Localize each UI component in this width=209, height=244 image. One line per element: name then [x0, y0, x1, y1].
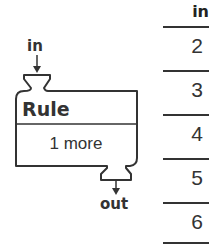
table-row: 2: [191, 34, 203, 58]
table-row: 5: [191, 166, 203, 190]
table-divider: [163, 158, 209, 160]
table-row: 6: [191, 210, 203, 234]
table-divider: [163, 26, 209, 28]
table-row: 3: [191, 78, 203, 102]
output-label: out: [100, 195, 128, 213]
machine-body: [16, 75, 137, 180]
table-divider: [163, 202, 209, 204]
table-row: 4: [191, 122, 203, 146]
function-machine: in Rule 1 more out: [0, 0, 150, 244]
table-divider: [163, 70, 209, 72]
table-divider: [163, 114, 209, 116]
input-arrowhead-icon: [33, 66, 41, 73]
rule-title: Rule: [22, 98, 70, 120]
table-header: in: [192, 2, 209, 21]
output-arrowhead-icon: [112, 188, 120, 195]
input-label: in: [27, 37, 43, 55]
rule-text: 1 more: [15, 134, 137, 154]
